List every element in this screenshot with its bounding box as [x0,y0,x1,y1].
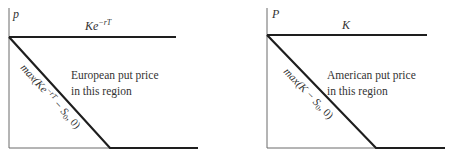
y-axis-label: p [12,7,19,21]
y-axis-label: P [271,7,280,21]
put-bounds-diagram: p Ke−rT max(Ke−rT − S0, 0) European put … [0,0,450,162]
region-text-line2: in this region [71,85,132,98]
upper-bound-label: Ke−rT [84,18,112,33]
american-panel: P K max(K − S0, 0) American put price in… [267,7,445,148]
upper-bound-label: K [341,18,351,32]
european-panel: p Ke−rT max(Ke−rT − S0, 0) European put … [9,7,198,148]
region-text-line2: in this region [327,85,388,98]
region-text-line1: American put price [327,69,416,82]
region-text-line1: European put price [71,69,159,82]
